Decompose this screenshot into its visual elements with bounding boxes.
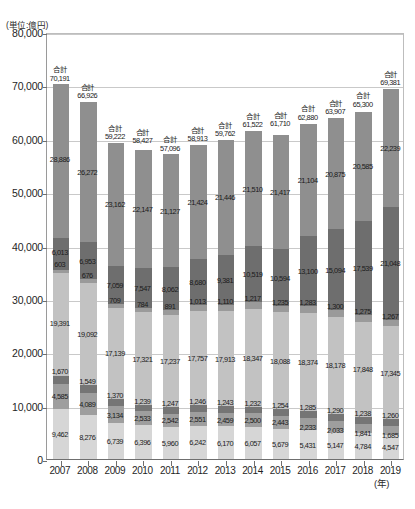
segment-value-label: 1,243 <box>212 399 238 406</box>
bar-total-label: 合計69,381 <box>375 71 405 88</box>
segment-value-label: 1,232 <box>240 400 266 407</box>
segment-value-label: 1,670 <box>47 368 73 375</box>
segment-value-label: 21,127 <box>157 208 183 215</box>
y-axis-tick-mark <box>43 248 47 249</box>
segment-value-label: 10,519 <box>240 271 266 278</box>
y-axis-tick-mark <box>43 34 47 35</box>
bar-segment-series-5 <box>245 302 262 308</box>
y-axis-tick-label: 70,000 <box>12 80 43 92</box>
y-axis-tick-mark <box>43 408 47 409</box>
bar-segment-series-3 <box>218 406 235 413</box>
segment-value-label: 3,134 <box>102 412 128 419</box>
y-axis-tick-label: 0 <box>37 454 43 466</box>
segment-value-label: 7,059 <box>102 282 128 289</box>
bar-segment-series-3 <box>383 419 400 426</box>
segment-value-label: 21,048 <box>377 260 403 267</box>
segment-value-label: 4,089 <box>74 401 100 408</box>
segment-value-label: 1,260 <box>377 412 403 419</box>
segment-value-label: 7,547 <box>129 285 155 292</box>
bar-segment-series-3 <box>53 376 70 385</box>
segment-value-label: 21,417 <box>267 189 293 196</box>
segment-value-label: 6,953 <box>74 258 100 265</box>
bar-segment-series-5 <box>190 305 207 310</box>
bar-total-label: 合計61,710 <box>265 112 295 129</box>
bar-segment-series-3 <box>273 409 290 416</box>
segment-value-label: 17,237 <box>157 358 183 365</box>
y-axis-tick-mark <box>43 354 47 355</box>
total-value: 57,096 <box>155 145 185 153</box>
bar-segment-series-3 <box>328 414 345 421</box>
segment-value-label: 2,533 <box>129 415 155 422</box>
segment-value-label: 13,100 <box>295 268 321 275</box>
segment-value-label: 17,757 <box>184 355 210 362</box>
y-axis-tick-label: 60,000 <box>12 134 43 146</box>
segment-value-label: 6,013 <box>47 249 73 256</box>
y-axis-tick-mark <box>43 194 47 195</box>
segment-value-label: 26,272 <box>74 169 100 176</box>
segment-value-label: 4,547 <box>377 444 403 451</box>
bar-segment-series-5 <box>383 320 400 327</box>
y-axis-tick-mark <box>43 461 47 462</box>
total-value: 69,381 <box>375 79 405 87</box>
segment-value-label: 676 <box>74 272 100 279</box>
segment-value-label: 891 <box>157 303 183 310</box>
segment-value-label: 15,094 <box>322 267 348 274</box>
bar-total-label: 合計59,222 <box>100 125 130 142</box>
total-value: 66,926 <box>72 92 102 100</box>
bar-total-label: 合計62,880 <box>293 105 323 122</box>
segment-value-label: 8,062 <box>157 286 183 293</box>
segment-value-label: 21,424 <box>184 199 210 206</box>
y-axis-tick-label: 20,000 <box>12 347 43 359</box>
bar-segment-series-3 <box>163 407 180 414</box>
segment-value-label: 22,147 <box>129 206 155 213</box>
bar-segment-series-5 <box>53 270 70 273</box>
segment-value-label: 18,374 <box>295 359 321 366</box>
segment-value-label: 17,848 <box>350 366 376 373</box>
total-value: 58,427 <box>127 137 157 145</box>
bar-total-label: 合計59,762 <box>210 122 240 139</box>
bar-2007[interactable] <box>53 84 70 459</box>
total-value: 65,300 <box>348 101 378 109</box>
segment-value-label: 18,347 <box>240 355 266 362</box>
segment-value-label: 1,370 <box>102 392 128 399</box>
segment-value-label: 21,510 <box>240 186 266 193</box>
gridline <box>47 34 403 35</box>
segment-value-label: 1,239 <box>129 398 155 405</box>
x-axis-tick-label-2019: 2019 <box>374 465 406 476</box>
bar-total-label: 合計66,926 <box>72 84 102 101</box>
segment-value-label: 1,267 <box>377 313 403 320</box>
segment-value-label: 4,585 <box>47 393 73 400</box>
total-value: 63,907 <box>320 108 350 116</box>
bar-segment-series-3 <box>355 417 372 424</box>
segment-value-label: 6,739 <box>102 438 128 445</box>
bar-total-label: 合計70,191 <box>45 66 75 83</box>
segment-value-label: 1,254 <box>267 402 293 409</box>
segment-value-label: 17,139 <box>102 350 128 357</box>
segment-value-label: 5,679 <box>267 441 293 448</box>
segment-value-label: 2,233 <box>295 424 321 431</box>
segment-value-label: 1,235 <box>267 299 293 306</box>
total-value: 62,880 <box>293 114 323 122</box>
segment-value-label: 22,239 <box>377 145 403 152</box>
total-value: 70,191 <box>45 75 75 83</box>
segment-value-label: 1,300 <box>322 303 348 310</box>
segment-value-label: 6,170 <box>212 440 238 447</box>
total-value: 59,762 <box>210 130 240 138</box>
y-axis-tick-label: 80,000 <box>12 27 43 39</box>
segment-value-label: 1,841 <box>350 430 376 437</box>
bar-total-label: 合計57,096 <box>155 136 185 153</box>
segment-value-label: 2,500 <box>240 417 266 424</box>
bar-total-label: 合計58,427 <box>127 129 157 146</box>
segment-value-label: 784 <box>129 301 155 308</box>
segment-value-label: 5,147 <box>322 442 348 449</box>
segment-value-label: 2,033 <box>322 427 348 434</box>
total-value: 61,522 <box>238 121 268 129</box>
bar-total-label: 合計65,300 <box>348 92 378 109</box>
segment-value-label: 1,110 <box>212 298 238 305</box>
segment-value-label: 6,057 <box>240 440 266 447</box>
bar-segment-series-3 <box>135 405 152 412</box>
segment-value-label: 28,886 <box>47 156 73 163</box>
segment-value-label: 21,446 <box>212 194 238 201</box>
segment-value-label: 19,092 <box>74 331 100 338</box>
y-axis-tick-label: 50,000 <box>12 187 43 199</box>
